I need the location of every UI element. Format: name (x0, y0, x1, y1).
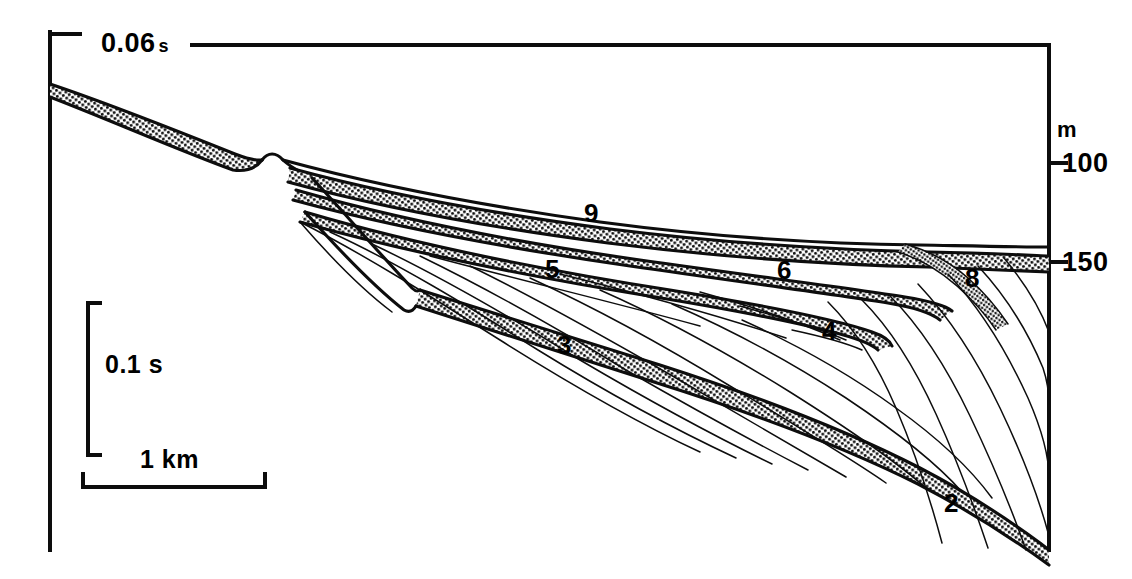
reflector-01 (300, 222, 700, 452)
depth-tick-label-150: 150 (1062, 247, 1109, 278)
depth-tick-label-100: 100 (1062, 148, 1109, 179)
horizon-2-base (416, 306, 1049, 565)
unit-label-4: 4 (822, 316, 836, 347)
band-shelf-drape-fill (50, 84, 262, 171)
unit-label-3: 3 (557, 330, 571, 361)
horizon-seafloor-upper (50, 84, 262, 160)
reflector-14 (948, 274, 1049, 478)
time-datum-unit: s (159, 36, 169, 57)
cross-section-canvas (0, 0, 1132, 579)
unit-label-9: 9 (584, 198, 598, 229)
seismic-section-figure: 0.06 s m 100 150 0.1 s 1 km 9 5 6 8 4 3 … (0, 0, 1132, 579)
horizontal-scale-bracket (83, 472, 265, 487)
unit-label-2: 2 (944, 488, 958, 519)
vertical-scale-bracket (88, 303, 102, 455)
reflector-15 (978, 266, 1049, 404)
unit-label-5: 5 (545, 254, 559, 285)
unit-label-8: 8 (965, 263, 979, 294)
vertical-scale-label: 0.1 s (105, 350, 163, 379)
band-3-fill (416, 290, 1049, 565)
unit-label-6: 6 (777, 255, 791, 286)
reflector-13 (918, 284, 1049, 536)
horizontal-scale-label: 1 km (140, 445, 199, 474)
depth-unit-label: m (1057, 117, 1077, 143)
time-datum-label: 0.06 s (101, 28, 169, 59)
time-datum-value: 0.06 (101, 28, 156, 59)
